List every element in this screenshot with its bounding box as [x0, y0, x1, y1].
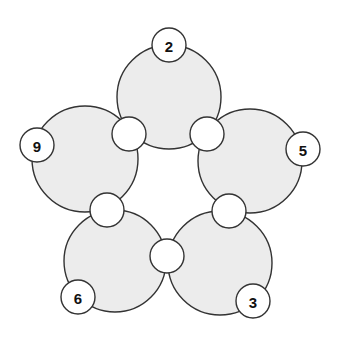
intersection-top-right[interactable]: [190, 117, 224, 151]
circle-label: 2: [165, 38, 173, 55]
intersection-left-bottom[interactable]: [90, 193, 124, 227]
ring-diagram: 25369: [0, 0, 341, 339]
circle-label: 6: [74, 290, 82, 307]
intersection-bottom[interactable]: [150, 239, 184, 273]
circle-label: 9: [33, 138, 41, 155]
intersection-right-bottom[interactable]: [212, 194, 246, 228]
circle-label: 5: [299, 142, 307, 159]
circle-label: 3: [249, 294, 257, 311]
intersection-top-left[interactable]: [112, 117, 146, 151]
